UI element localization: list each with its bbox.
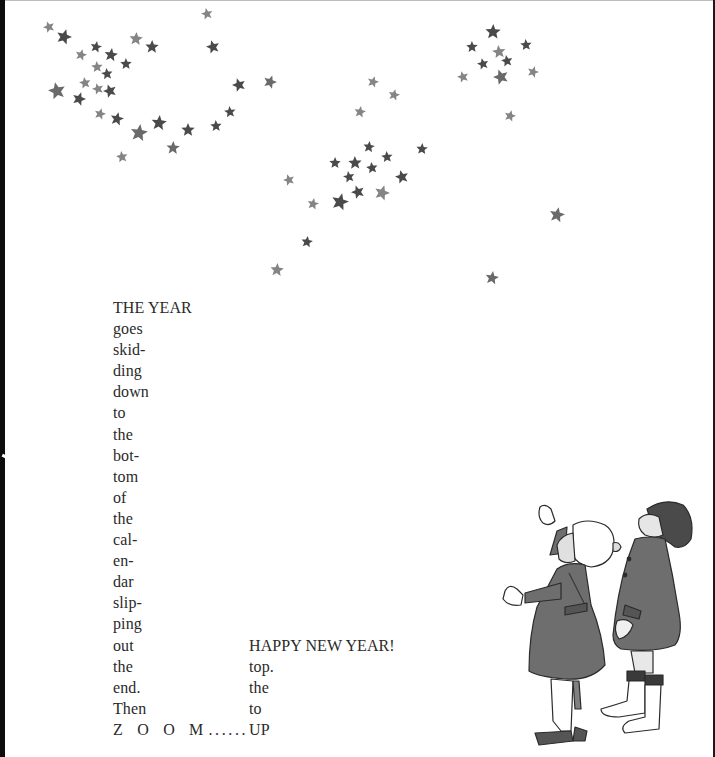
star-icon [332, 193, 349, 210]
star-icon [477, 58, 488, 69]
poem-line: to [249, 698, 395, 719]
star-icon [92, 83, 103, 94]
star-icon [348, 156, 361, 169]
book-page: THE YEAR goes skid- ding down to the bot… [0, 0, 715, 757]
poem-right-column: HAPPY NEW YEAR! top. the to UP [249, 635, 395, 740]
poem-line: top. [249, 656, 395, 677]
star-icon [101, 68, 112, 79]
star-icon [381, 151, 392, 162]
star-icon [57, 29, 72, 44]
star-icon [181, 123, 194, 136]
star-icon [103, 84, 116, 97]
star-icon [486, 24, 501, 39]
star-icon [95, 108, 106, 119]
star-icon [283, 174, 294, 185]
star-icon [111, 112, 124, 125]
happy-new-year-line: HAPPY NEW YEAR! [249, 635, 395, 656]
poem-line: en- [113, 550, 248, 571]
star-icon [308, 198, 319, 209]
star-icon [351, 185, 364, 198]
star-icon [79, 77, 90, 88]
star-icon [366, 162, 377, 173]
poem-line: ding [113, 360, 248, 381]
star-icon [355, 106, 366, 117]
poem-line: THE YEAR [113, 297, 248, 318]
star-icon [329, 157, 340, 168]
star-icon [520, 39, 531, 50]
children-illustration [495, 495, 715, 757]
star-icon [91, 41, 102, 52]
star-icon [505, 110, 516, 121]
star-field [0, 0, 715, 300]
poem-line: cal- [113, 529, 248, 550]
star-icon [416, 143, 427, 154]
star-icon [501, 55, 512, 66]
star-icon [375, 185, 390, 200]
poem-line: tom [113, 466, 248, 487]
star-icon [389, 89, 400, 100]
star-icon [105, 48, 118, 61]
poem-line: dar [113, 571, 248, 592]
star-icon [368, 76, 379, 87]
star-icon [201, 8, 212, 19]
star-icon [343, 171, 354, 182]
star-icon [550, 207, 565, 222]
poem-line: to [113, 402, 248, 423]
star-icon [457, 71, 468, 82]
star-icon [206, 40, 219, 53]
star-icon [210, 120, 221, 131]
zoom-word: Z O O M [113, 721, 209, 738]
star-icon [73, 92, 86, 105]
poem-line: the [113, 656, 248, 677]
star-icon [395, 170, 408, 183]
poem-line: skid- [113, 339, 248, 360]
poem-line: slip- [113, 592, 248, 613]
star-icon [43, 21, 54, 32]
poem-line: out [113, 635, 248, 656]
poem-line: UP [249, 719, 395, 740]
star-icon [167, 141, 180, 154]
poem-line: down [113, 381, 248, 402]
zoom-dots: ...... [209, 721, 249, 738]
star-icon [232, 78, 245, 91]
star-icon [91, 61, 102, 72]
child-right-figure [601, 502, 692, 733]
star-icon [145, 40, 158, 53]
star-icon [120, 58, 131, 69]
poem-line: the [113, 508, 248, 529]
star-icon [130, 32, 143, 45]
poem-line: bot- [113, 445, 248, 466]
star-icon [264, 75, 277, 88]
poem-line: of [113, 487, 248, 508]
poem-line: the [113, 424, 248, 445]
poem-zoom-line: Z O O M...... [113, 719, 248, 740]
poem-line: Then [113, 698, 248, 719]
star-icon [116, 151, 127, 162]
star-icon [302, 236, 313, 247]
star-icon [492, 45, 505, 58]
star-icon [528, 66, 539, 77]
star-icon [224, 106, 235, 117]
poem-line: the [249, 677, 395, 698]
poem-left-column: THE YEAR goes skid- ding down to the bot… [113, 297, 248, 740]
star-icon [493, 69, 508, 84]
poem-line: end. [113, 677, 248, 698]
star-icon [271, 263, 284, 276]
star-icon [486, 271, 499, 284]
star-icon [131, 124, 148, 141]
star-icon [364, 141, 375, 152]
poem-line: ping [113, 613, 248, 634]
star-icon [76, 49, 87, 60]
poem-line: goes [113, 318, 248, 339]
star-icon [466, 41, 477, 52]
star-icon [48, 82, 65, 99]
star-icon [152, 115, 167, 130]
